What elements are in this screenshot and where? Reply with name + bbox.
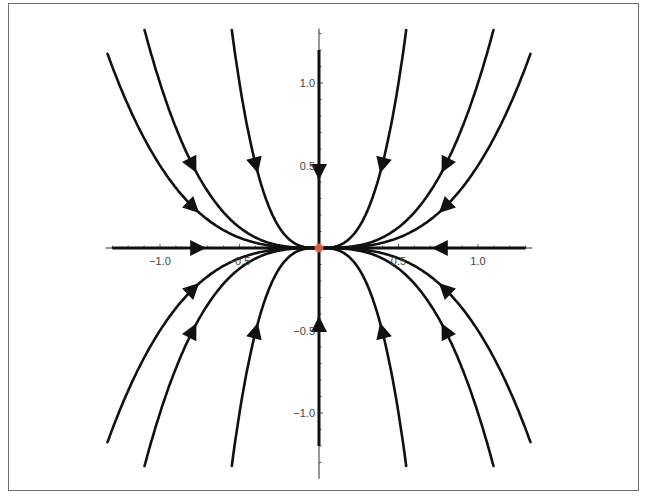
flow-arrow-icon: [246, 156, 262, 173]
trajectory-curve: [108, 248, 320, 442]
y-tick-label: −0.5: [293, 325, 315, 337]
y-tick-label: 0.5: [300, 160, 315, 172]
trajectory-curve: [232, 248, 319, 466]
flow-arrow-icon: [376, 323, 392, 340]
trajectory-curve: [319, 30, 494, 248]
flow-arrow-icon: [376, 156, 392, 173]
phase-portrait-chart: −1.0−0.50.51.01.00.5−0.5−1.0: [0, 0, 646, 498]
trajectory-curve: [319, 248, 406, 466]
x-tick-label: −1.0: [149, 255, 171, 267]
y-tick-label: 1.0: [300, 77, 315, 89]
trajectory-curve: [319, 248, 531, 442]
trajectory-curve: [319, 248, 494, 466]
trajectory-curve: [319, 54, 531, 248]
trajectory-curve: [232, 30, 319, 248]
trajectory-curve: [108, 54, 320, 248]
trajectory-curve: [145, 248, 320, 466]
flow-arrow-icon: [246, 323, 262, 340]
x-tick-label: 1.0: [470, 255, 485, 267]
x-axis-arrow-icon: [432, 240, 448, 256]
x-tick-label: 0.5: [391, 255, 406, 267]
x-axis-arrow-icon: [190, 240, 206, 256]
trajectory-curve: [319, 30, 406, 248]
x-tick-label: −0.5: [229, 255, 251, 267]
equilibrium-point: [315, 244, 324, 253]
trajectory-curve: [145, 30, 320, 248]
y-tick-label: −1.0: [293, 407, 315, 419]
